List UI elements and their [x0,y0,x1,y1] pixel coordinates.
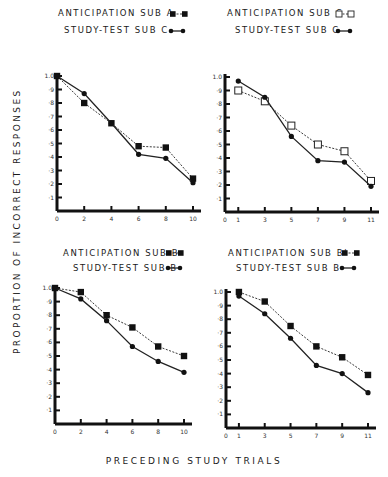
series-line [55,288,184,356]
y-tick-label: ·9 [216,87,222,94]
x-tick-label: 6 [130,428,134,435]
x-tick-label: 6 [137,215,141,222]
legend-marker [166,266,171,271]
y-tick-label: ·2 [48,180,54,187]
y-tick-label: ·6 [48,126,54,133]
data-point [368,184,373,189]
y-tick-label: ·3 [217,383,223,390]
data-point [156,359,161,364]
chart-bottom-left: ·1·2·3·4·5·6·7·8·91.00246810 [42,250,192,435]
x-tick-label: 4 [109,215,113,222]
data-point [262,298,268,304]
x-tick-label: 7 [316,216,320,223]
x-tick-label: 0 [53,428,57,435]
x-tick-label: 10 [180,428,188,435]
data-point [163,144,169,150]
y-tick-label: ·6 [217,342,223,349]
data-point [342,159,347,164]
data-point [103,312,109,318]
legend-marker [178,250,184,256]
data-point [339,354,345,360]
data-point [236,78,241,83]
charts-canvas: ·1·2·3·4·5·6·7·8·91.00246810·1·2·3·4·5·6… [0,0,388,477]
y-tick-label: ·1 [217,410,223,417]
x-tick-label: 5 [289,432,293,439]
x-tick-label: 3 [263,432,267,439]
chart-bottom-right: ·1·2·3·4·5·6·7·8·91.001357911 [213,250,376,439]
data-point [136,152,141,157]
legend-marker [170,11,176,17]
y-tick-label: ·7 [46,325,52,332]
y-tick-label: ·3 [48,167,54,174]
series-line [57,76,193,179]
x-tick-label: 0 [55,215,59,222]
x-tick-label: 2 [79,428,83,435]
data-point [236,293,241,298]
data-point [262,311,267,316]
data-point [82,91,87,96]
y-tick-label: ·5 [48,140,54,147]
data-point [135,143,141,149]
chart-top-left: ·1·2·3·4·5·6·7·8·91.00246810 [44,11,201,222]
series-line [239,292,368,375]
y-tick-label: ·1 [216,195,222,202]
y-tick-label: ·8 [217,315,223,322]
y-tick-label: ·5 [46,352,52,359]
x-tick-label: 2 [82,215,86,222]
x-tick-label: 0 [224,432,228,439]
chart-top-right: ·1·2·3·4·5·6·7·8·91.001357911 [212,11,379,223]
data-point [81,100,87,106]
data-point [340,371,345,376]
data-point [78,289,84,295]
y-tick-label: ·2 [216,181,222,188]
legend-marker [336,29,341,34]
legend-marker [166,250,172,256]
y-tick-label: ·6 [216,127,222,134]
data-point [314,141,321,148]
y-tick-label: 1.0 [212,73,222,80]
data-point [54,73,59,78]
data-point [78,296,83,301]
data-point [315,158,320,163]
legend-marker [178,266,183,271]
x-tick-label: 10 [189,215,197,222]
data-point [190,180,195,185]
legend-marker [181,29,186,34]
data-point [52,285,57,290]
x-tick-label: 3 [263,216,267,223]
data-point [314,363,319,368]
series-line [238,81,371,186]
x-tick-label: 0 [223,216,227,223]
legend-marker [348,29,353,34]
y-tick-label: ·7 [48,113,54,120]
y-tick-label: ·7 [217,329,223,336]
x-tick-label: 1 [236,216,240,223]
x-tick-label: 11 [364,432,372,439]
data-point [288,336,293,341]
data-point [288,122,295,129]
y-tick-label: ·5 [217,356,223,363]
y-tick-label: ·4 [48,153,54,160]
y-tick-label: 1.0 [44,72,54,79]
data-point [129,324,135,330]
legend-marker [348,11,354,17]
legend-marker [182,11,188,17]
data-point [287,323,293,329]
legend-marker [354,250,360,256]
x-tick-label: 5 [289,216,293,223]
data-point [109,121,114,126]
y-tick-label: ·9 [46,298,52,305]
data-point [181,353,187,359]
y-tick-label: ·2 [217,397,223,404]
y-tick-label: ·4 [217,370,223,377]
data-point [130,344,135,349]
y-tick-label: ·3 [216,168,222,175]
x-tick-label: 8 [156,428,160,435]
x-tick-label: 9 [343,216,347,223]
y-tick-label: ·1 [46,406,52,413]
data-point [181,370,186,375]
y-tick-label: ·9 [217,302,223,309]
y-tick-label: 1.0 [42,284,52,291]
data-point [104,318,109,323]
y-tick-label: ·9 [48,86,54,93]
